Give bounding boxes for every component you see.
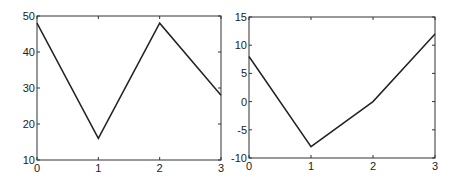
y-tick-label: 5 [241, 67, 247, 79]
data-line [37, 23, 221, 138]
x-tick-label: 2 [157, 162, 163, 174]
figure: 012310203040500123-10-5051015 [0, 0, 459, 183]
x-tick-label: 2 [370, 160, 376, 172]
x-tick-label: 3 [218, 162, 224, 174]
y-tick-label: 50 [23, 10, 35, 22]
y-tick-label: 30 [23, 82, 35, 94]
x-tick-label: 1 [308, 160, 314, 172]
y-tick-label: 20 [23, 118, 35, 130]
y-tick-label: 15 [235, 11, 247, 23]
y-tick-label: -10 [231, 152, 247, 164]
axes-box [249, 17, 435, 158]
y-tick-label: 0 [241, 96, 247, 108]
chart-1: 01231020304050 [23, 10, 224, 174]
y-tick-label: 10 [235, 39, 247, 51]
chart-2: 0123-10-5051015 [231, 11, 438, 172]
x-tick-label: 1 [95, 162, 101, 174]
y-tick-label: 40 [23, 46, 35, 58]
data-line [249, 34, 435, 147]
y-tick-label: -5 [237, 124, 247, 136]
axes-box [37, 16, 221, 160]
x-tick-label: 3 [432, 160, 438, 172]
y-tick-label: 10 [23, 154, 35, 166]
